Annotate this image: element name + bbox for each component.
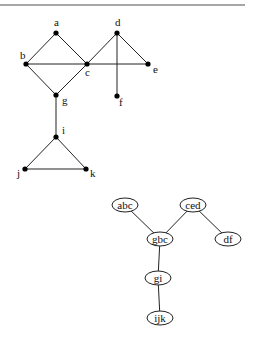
graph-node-label-c: c (85, 66, 90, 78)
graph-edge-i-j (25, 137, 56, 169)
graph-node-a (53, 30, 58, 35)
graph-edge-b-g (26, 64, 56, 95)
graph-node-label-g: g (62, 94, 68, 106)
graph-nodes: abcdefgijk (16, 16, 158, 179)
graph-edge-d-e (117, 33, 148, 64)
graph-node-g (53, 92, 58, 97)
graph-edges (25, 33, 148, 169)
graph-edge-a-b (26, 33, 56, 64)
tree-nodes: abccedgbcdfgiijk (112, 198, 241, 325)
tree-node-label-df: df (223, 233, 233, 245)
graph-node-k (83, 166, 88, 171)
graph-edge-c-d (87, 33, 117, 64)
tree-node-label-ijk: ijk (154, 312, 166, 324)
graph-node-d (114, 30, 119, 35)
graph-node-j (22, 166, 27, 171)
tree-edges (125, 205, 228, 318)
tree-node-label-gi: gi (154, 272, 163, 284)
graph-node-label-k: k (90, 167, 96, 179)
graph-edge-i-k (56, 137, 86, 169)
graph-node-label-i: i (62, 124, 65, 136)
graph-node-label-j: j (16, 167, 20, 179)
tree-node-label-gbc: gbc (152, 233, 168, 245)
tree-node-label-ced: ced (185, 199, 201, 211)
graph-node-label-b: b (20, 49, 26, 61)
graph-node-label-f: f (119, 96, 123, 108)
graph-node-i (53, 134, 58, 139)
graph-node-e (145, 61, 150, 66)
tree-node-label-abc: abc (117, 199, 132, 211)
graph-edge-c-g (56, 64, 87, 95)
graph-node-label-a: a (54, 16, 59, 28)
graph-node-label-d: d (115, 16, 121, 28)
graph-node-b (23, 61, 28, 66)
graph-edge-a-c (56, 33, 87, 64)
diagram-canvas: abcdefgijk abccedgbcdfgiijk (0, 0, 254, 345)
graph-node-label-e: e (153, 63, 158, 75)
